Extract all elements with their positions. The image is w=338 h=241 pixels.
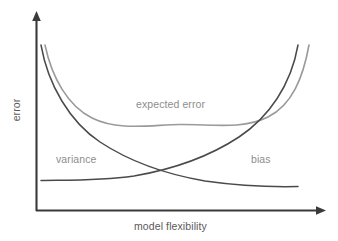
arrow-right-icon: [316, 206, 326, 215]
y-axis-title: error: [10, 88, 22, 132]
curve-label-variance: variance: [56, 153, 97, 165]
curve-label-bias: bias: [251, 153, 271, 165]
x-axis-title: model flexibility: [134, 220, 207, 232]
arrow-up-icon: [32, 11, 41, 21]
curve-label-expected-error: expected error: [136, 98, 205, 110]
curve-expected-error: [45, 45, 309, 126]
plot-area: [0, 0, 338, 241]
bias-variance-tradeoff-figure: expected error variance bias model flexi…: [0, 0, 338, 241]
curve-variance: [41, 45, 298, 187]
